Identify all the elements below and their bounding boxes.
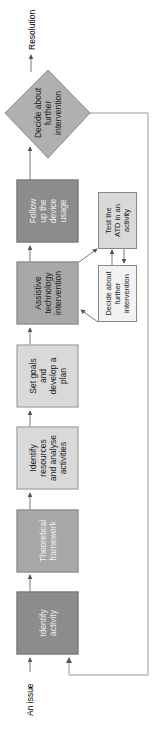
step-follow-up: Follow up the device usage: [17, 180, 79, 243]
step-theoretical-framework: Theoretical framework: [17, 510, 79, 573]
start-label: An issue: [25, 683, 35, 716]
step-set-goals: Set goals and develop a plan: [17, 345, 79, 408]
sub-test-atd: Test the ATD in an activity: [98, 192, 137, 249]
step-identify-activity: Identify activity: [17, 592, 79, 655]
decision-label: Decide about further intervention: [33, 83, 63, 143]
step-at-intervention: Assistive technology intervention: [17, 262, 79, 325]
sub-decide-further: Decide about further intervention: [98, 265, 137, 322]
end-label: Resolution: [27, 10, 37, 50]
step-identify-resources: Identify resources and analyse activitie…: [17, 427, 79, 490]
